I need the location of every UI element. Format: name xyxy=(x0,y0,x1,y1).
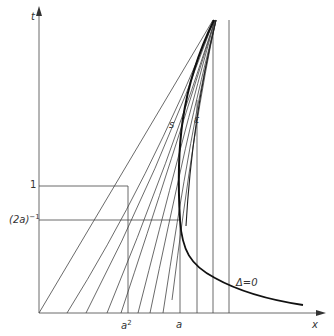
curve-label-epsilon: ε xyxy=(194,115,199,125)
characteristic-line xyxy=(86,20,214,313)
characteristic-line xyxy=(67,20,214,313)
tick-label-one: 1 xyxy=(30,180,36,190)
characteristic-line xyxy=(163,20,216,313)
tick-label-a-squared-exp: 2 xyxy=(127,319,131,327)
curve-label-s: s xyxy=(169,120,174,130)
diagram-canvas xyxy=(0,0,334,336)
characteristic-line xyxy=(107,20,215,313)
tick-label-inv-2a-exp: −1 xyxy=(29,213,39,221)
characteristics-diagram: t x 1 (2a)−1 a2 a s ε Δ=0 xyxy=(0,0,334,336)
delta-zero-curve xyxy=(180,220,303,305)
curve-label-delta-zero: Δ=0 xyxy=(236,278,258,288)
tick-label-a-squared: a2 xyxy=(121,320,132,331)
t-axis-label: t xyxy=(31,12,35,22)
x-axis-arrow-icon xyxy=(316,310,326,316)
x-axis-label: x xyxy=(312,320,318,330)
t-axis-arrow-icon xyxy=(36,6,42,16)
tick-label-inv-2a: (2a)−1 xyxy=(9,214,40,225)
characteristic-line xyxy=(138,20,215,313)
tick-label-a: a xyxy=(176,320,182,330)
tick-label-inv-2a-base: (2a) xyxy=(9,214,29,225)
